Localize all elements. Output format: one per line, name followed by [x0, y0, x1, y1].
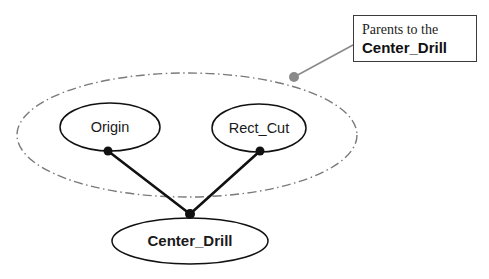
callout-text-line2: Center_Drill [362, 38, 476, 57]
center-drill-junction-dot [185, 209, 195, 219]
callout-text-line1: Parents to the [362, 21, 476, 38]
node-origin-label: Origin [91, 119, 130, 135]
edge-rect-cut-to-center-drill [190, 151, 260, 214]
parents-callout-box: Parents to the Center_Drill [353, 15, 477, 62]
edge-origin-to-center-drill [108, 151, 190, 214]
node-rect-cut-label: Rect_Cut [229, 120, 289, 136]
rect-cut-port-dot [256, 147, 265, 156]
node-origin[interactable]: Origin [60, 103, 160, 151]
callout-anchor-dot [289, 72, 299, 82]
diagram-canvas: Origin Rect_Cut Center_Drill Parents to … [0, 0, 489, 279]
node-center-drill[interactable]: Center_Drill [112, 218, 268, 264]
callout-leader-line [294, 45, 353, 77]
node-rect-cut[interactable]: Rect_Cut [212, 104, 306, 152]
origin-port-dot [104, 147, 113, 156]
node-center-drill-label: Center_Drill [147, 232, 232, 249]
